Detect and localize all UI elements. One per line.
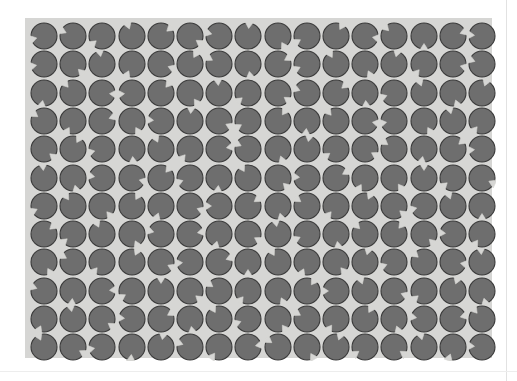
disc-7-11 — [351, 220, 379, 248]
notched-disc-icon — [468, 277, 496, 305]
notched-disc-icon — [30, 135, 58, 163]
notched-disc-icon — [147, 277, 175, 305]
notched-disc-icon — [410, 79, 438, 107]
disc-0-10 — [322, 22, 350, 50]
notched-disc-icon — [293, 22, 321, 50]
disc-8-1 — [59, 248, 87, 276]
disc-5-12 — [380, 164, 408, 192]
notched-disc-icon — [205, 107, 233, 135]
disc-11-15 — [468, 333, 496, 361]
disc-6-1 — [59, 192, 87, 220]
notched-disc-icon — [147, 192, 175, 220]
disc-6-15 — [468, 192, 496, 220]
disc-9-12 — [380, 277, 408, 305]
disc-3-6 — [205, 107, 233, 135]
disc-4-13 — [410, 135, 438, 163]
notched-disc-icon — [176, 107, 204, 135]
disc-7-2 — [88, 220, 116, 248]
notched-disc-icon — [264, 220, 292, 248]
notched-disc-icon — [88, 333, 116, 361]
notched-disc-icon — [264, 333, 292, 361]
disc-1-13 — [410, 50, 438, 78]
disc-notch — [352, 221, 360, 229]
notched-disc-icon — [293, 50, 321, 78]
disc-6-11 — [351, 192, 379, 220]
notched-disc-icon — [410, 305, 438, 333]
disc-1-5 — [176, 50, 204, 78]
disc-8-11 — [351, 248, 379, 276]
disc-4-2 — [88, 135, 116, 163]
notched-disc-icon — [380, 135, 408, 163]
disc-3-0 — [30, 107, 58, 135]
notched-disc-icon — [118, 107, 146, 135]
notched-disc-icon — [88, 248, 116, 276]
disc-7-5 — [176, 220, 204, 248]
disc-4-9 — [293, 135, 321, 163]
disc-8-12 — [380, 248, 408, 276]
notched-disc-icon — [264, 107, 292, 135]
notched-disc-icon — [380, 164, 408, 192]
disc-10-2 — [88, 305, 116, 333]
disc-9-13 — [410, 277, 438, 305]
notched-disc-icon — [468, 305, 496, 333]
notched-disc-icon — [234, 305, 262, 333]
notched-disc-icon — [234, 333, 262, 361]
disc-7-8 — [264, 220, 292, 248]
disc-11-11 — [351, 333, 379, 361]
notched-disc-icon — [118, 277, 146, 305]
notched-disc-icon — [293, 79, 321, 107]
notched-disc-icon — [439, 79, 467, 107]
notched-disc-icon — [380, 277, 408, 305]
disc-9-0 — [30, 277, 58, 305]
notched-disc-icon — [322, 50, 350, 78]
notched-disc-icon — [30, 305, 58, 333]
notched-disc-icon — [380, 220, 408, 248]
notched-disc-icon — [439, 333, 467, 361]
notched-disc-icon — [147, 135, 175, 163]
notched-disc-icon — [147, 333, 175, 361]
disc-6-4 — [147, 192, 175, 220]
notched-disc-icon — [147, 79, 175, 107]
notched-disc-icon — [351, 22, 379, 50]
notched-disc-icon — [439, 192, 467, 220]
disc-9-6 — [205, 277, 233, 305]
disc-9-3 — [118, 277, 146, 305]
disc-11-9 — [293, 333, 321, 361]
disc-2-0 — [30, 79, 58, 107]
notched-disc-icon — [468, 50, 496, 78]
notched-disc-icon — [176, 277, 204, 305]
notched-disc-icon — [410, 220, 438, 248]
disc-4-4 — [147, 135, 175, 163]
notched-disc-icon — [147, 107, 175, 135]
disc-7-10 — [322, 220, 350, 248]
notched-disc-icon — [176, 305, 204, 333]
notched-disc-icon — [30, 248, 58, 276]
disc-5-10 — [322, 164, 350, 192]
disc-3-7 — [234, 107, 262, 135]
disc-7-1 — [59, 220, 87, 248]
notched-disc-icon — [322, 135, 350, 163]
stimulus-panel — [25, 18, 492, 358]
notched-disc-icon — [234, 164, 262, 192]
disc-1-3 — [118, 50, 146, 78]
notched-disc-icon — [351, 220, 379, 248]
disc-8-4 — [147, 248, 175, 276]
notched-disc-icon — [410, 50, 438, 78]
notched-disc-icon — [351, 50, 379, 78]
disc-1-0 — [30, 50, 58, 78]
disc-11-6 — [205, 333, 233, 361]
disc-10-5 — [176, 305, 204, 333]
notched-disc-icon — [322, 333, 350, 361]
disc-10-11 — [351, 305, 379, 333]
disc-7-13 — [410, 220, 438, 248]
disc-8-2 — [88, 248, 116, 276]
disc-3-10 — [322, 107, 350, 135]
disc-6-8 — [264, 192, 292, 220]
notched-disc-icon — [439, 107, 467, 135]
disc-2-6 — [205, 79, 233, 107]
disc-5-13 — [410, 164, 438, 192]
disc-11-14 — [439, 333, 467, 361]
disc-5-15 — [468, 164, 496, 192]
disc-6-9 — [293, 192, 321, 220]
disc-7-14 — [439, 220, 467, 248]
